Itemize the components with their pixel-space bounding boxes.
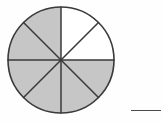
fraction-circle-diagram xyxy=(0,0,124,123)
fraction-circle-svg xyxy=(0,0,124,123)
answer-blank-line[interactable] xyxy=(131,110,161,111)
worksheet-figure-page xyxy=(0,0,162,123)
